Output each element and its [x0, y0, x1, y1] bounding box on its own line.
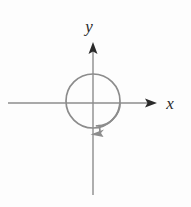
coordinate-plane-figure: x y: [0, 0, 191, 207]
rotation-arc: [97, 103, 121, 126]
y-axis-label: y: [83, 17, 93, 36]
figure-container: x y: [0, 0, 191, 207]
x-axis-label: x: [165, 94, 174, 113]
